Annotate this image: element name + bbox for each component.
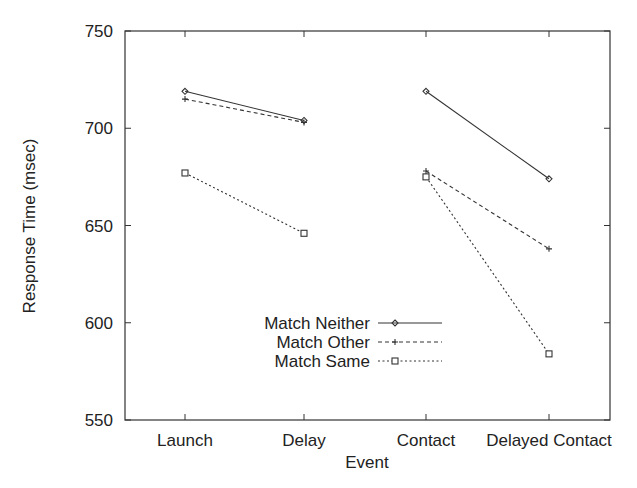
- series-line: [426, 177, 549, 354]
- square-marker-icon: [392, 358, 398, 364]
- square-marker-icon: [301, 230, 307, 236]
- series-match-other: [182, 96, 552, 252]
- line-chart: 550600650700750 LaunchDelayContactDelaye…: [0, 0, 637, 488]
- y-tick-label: 550: [85, 411, 113, 430]
- plus-marker-icon: [423, 168, 429, 174]
- series-line: [185, 91, 304, 120]
- series-line: [426, 171, 549, 249]
- square-marker-icon: [182, 170, 188, 176]
- square-marker-icon: [546, 351, 552, 357]
- series-line: [426, 91, 549, 179]
- y-tick-label: 600: [85, 314, 113, 333]
- legend-item-match-same: Match Same: [275, 352, 442, 371]
- square-marker-icon: [423, 174, 429, 180]
- y-tick-label: 700: [85, 119, 113, 138]
- x-axis: LaunchDelayContactDelayed Contact: [157, 31, 612, 450]
- x-tick-label: Contact: [397, 431, 456, 450]
- x-tick-label: Launch: [157, 431, 213, 450]
- plus-marker-icon: [392, 339, 398, 345]
- plus-marker-icon: [546, 246, 552, 252]
- x-tick-label: Delay: [282, 431, 326, 450]
- legend: Match Neither Match Other Match Same: [264, 314, 442, 371]
- series-line: [185, 99, 304, 122]
- series-match-neither: [182, 88, 552, 182]
- x-axis-title: Event: [345, 453, 389, 472]
- y-tick-label: 650: [85, 217, 113, 236]
- legend-label: Match Same: [275, 352, 370, 371]
- legend-item-match-other: Match Other: [276, 333, 442, 352]
- y-axis-title: Response Time (msec): [20, 139, 39, 314]
- legend-label: Match Other: [276, 333, 370, 352]
- legend-label: Match Neither: [264, 314, 370, 333]
- x-tick-label: Delayed Contact: [486, 431, 612, 450]
- plus-marker-icon: [182, 96, 188, 102]
- series-line: [185, 173, 304, 233]
- legend-item-match-neither: Match Neither: [264, 314, 442, 333]
- y-tick-label: 750: [85, 22, 113, 41]
